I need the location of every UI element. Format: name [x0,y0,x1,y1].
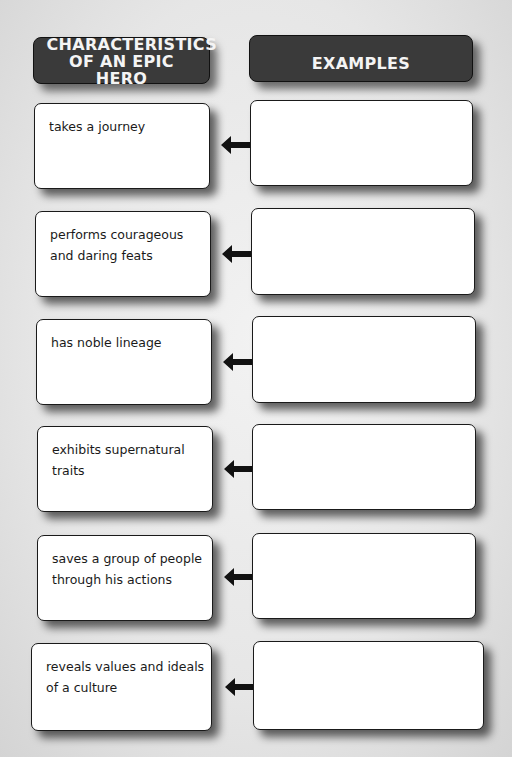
arrow-left-icon [222,245,252,263]
characteristic-text: has noble lineage [51,332,201,353]
arrow-left-icon [225,678,255,696]
characteristic-box-2: performs courageous and daring feats [35,211,211,297]
characteristic-box-1: takes a journey [34,103,210,189]
characteristic-text: reveals values and ideals of a culture [46,656,208,698]
examples-header: EXAMPLES [249,35,473,82]
arrow-left-icon [221,136,251,154]
arrow-left-icon [224,460,254,478]
characteristic-text: takes a journey [49,116,199,137]
characteristic-text: performs courageous and daring feats [50,224,200,266]
example-box-2[interactable] [251,208,475,295]
characteristic-box-6: reveals values and ideals of a culture [31,643,212,731]
example-box-5[interactable] [252,533,476,619]
arrow-left-icon [223,353,253,371]
characteristics-header-label: CHARACTERISTICS OF AN EPIC HERO [47,36,197,87]
characteristic-box-5: saves a group of people through his acti… [37,535,213,621]
examples-header-label: EXAMPLES [312,55,410,72]
example-box-6[interactable] [253,641,484,730]
characteristic-text: exhibits supernatural traits [52,439,202,481]
characteristics-header: CHARACTERISTICS OF AN EPIC HERO [33,37,210,84]
arrow-left-icon [224,568,254,586]
characteristic-box-4: exhibits supernatural traits [37,426,213,512]
example-box-1[interactable] [250,100,473,186]
characteristic-box-3: has noble lineage [36,319,212,405]
characteristic-text: saves a group of people through his acti… [52,548,207,590]
example-box-3[interactable] [252,316,476,403]
example-box-4[interactable] [252,424,476,510]
